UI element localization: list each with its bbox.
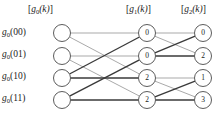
- column-header-stage1: [g1(k)]: [126, 4, 151, 14]
- node-value-stage2-row3: 3: [196, 93, 210, 107]
- node-stage0-row2: [54, 70, 71, 87]
- node-stage0-row0: [54, 25, 71, 42]
- node-stage0-row1: [54, 48, 71, 65]
- node-value-stage1-row2: 2: [140, 71, 154, 85]
- node-value-stage2-row2: 1: [196, 71, 210, 85]
- node-value-stage2-row0: 0: [196, 26, 210, 40]
- row-label-2: g0(10): [2, 71, 26, 81]
- node-value-stage2-row1: 2: [196, 49, 210, 63]
- node-value-stage1-row1: 0: [140, 49, 154, 63]
- node-value-stage1-row3: 2: [140, 93, 154, 107]
- column-header-stage0: [g0(k)]: [28, 4, 53, 14]
- row-label-1: g0(01): [2, 49, 26, 59]
- row-label-0: g0(00): [2, 27, 26, 37]
- node-stage0-row3: [54, 92, 71, 109]
- column-header-stage2: [g2(k)]: [181, 4, 206, 14]
- row-label-3: g0(11): [2, 93, 25, 103]
- fft-butterfly-diagram: [g0(k)] [g1(k)] [g2(k)] g0(00) g0(01) g0…: [0, 0, 221, 119]
- node-value-stage1-row0: 0: [140, 26, 154, 40]
- signal-flow-graph: [0, 0, 221, 119]
